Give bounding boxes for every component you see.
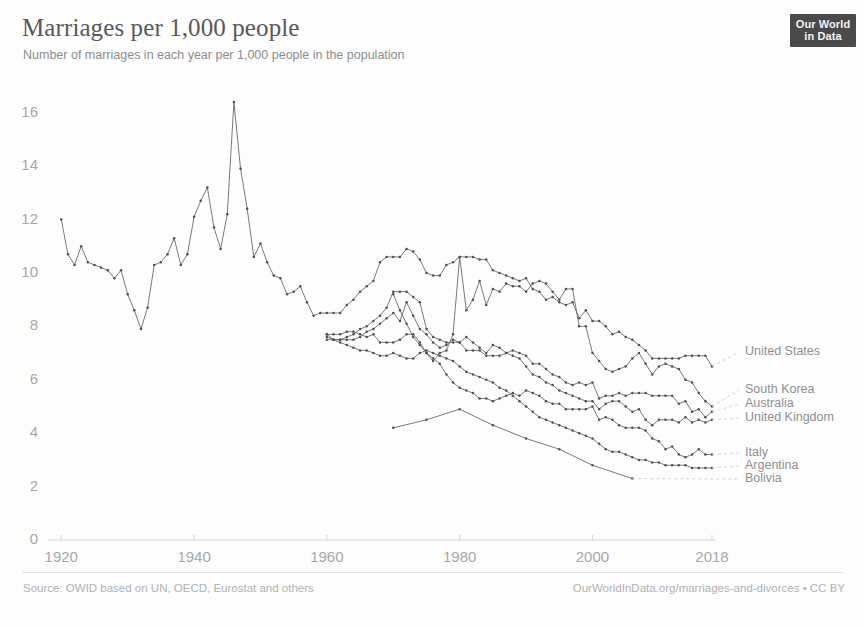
legend-label-argentina[interactable]: Argentina xyxy=(745,458,799,472)
chart-title: Marriages per 1,000 people xyxy=(22,14,300,42)
logo-line-1: Our World xyxy=(796,19,850,31)
y-tick-2: 2 xyxy=(8,477,38,494)
chart-container: Marriages per 1,000 people Number of mar… xyxy=(0,0,865,626)
y-tick-8: 8 xyxy=(8,316,38,333)
series-bolivia xyxy=(392,408,634,480)
link-note[interactable]: OurWorldInData.org/marriages-and-divorce… xyxy=(573,582,845,594)
series-italy xyxy=(326,330,714,458)
series-australia xyxy=(326,290,714,418)
legend-leader-lines xyxy=(632,352,739,479)
legend-label-italy[interactable]: Italy xyxy=(745,445,768,459)
legend-label-bolivia[interactable]: Bolivia xyxy=(745,471,782,485)
chart-subtitle: Number of marriages in each year per 1,0… xyxy=(23,48,405,62)
y-tick-16: 16 xyxy=(8,103,38,120)
our-world-in-data-logo[interactable]: Our World in Data xyxy=(790,14,856,47)
x-tick-2018: 2018 xyxy=(682,548,742,565)
source-note: Source: OWID based on UN, OECD, Eurostat… xyxy=(23,582,314,594)
y-tick-14: 14 xyxy=(8,156,38,173)
legend-label-united-states[interactable]: United States xyxy=(745,344,820,358)
legend-label-australia[interactable]: Australia xyxy=(745,396,794,410)
series-argentina xyxy=(326,336,714,469)
x-tick-2000: 2000 xyxy=(562,548,622,565)
plot-area xyxy=(0,0,865,626)
y-tick-0: 0 xyxy=(8,530,38,547)
x-tick-1960: 1960 xyxy=(297,548,357,565)
series-south-korea xyxy=(392,256,713,408)
series-lines xyxy=(60,101,713,480)
y-tick-12: 12 xyxy=(8,210,38,227)
legend-label-united-kingdom[interactable]: United Kingdom xyxy=(745,410,834,424)
legend-label-south-korea[interactable]: South Korea xyxy=(745,382,815,396)
footer-divider xyxy=(22,572,843,573)
series-united-states xyxy=(60,101,713,368)
series-united-kingdom xyxy=(326,301,714,426)
y-tick-10: 10 xyxy=(8,263,38,280)
y-tick-6: 6 xyxy=(8,370,38,387)
axis-lines xyxy=(48,535,716,540)
x-tick-1940: 1940 xyxy=(164,548,224,565)
y-tick-4: 4 xyxy=(8,423,38,440)
x-tick-1920: 1920 xyxy=(31,548,91,565)
x-tick-1980: 1980 xyxy=(430,548,490,565)
logo-line-2: in Data xyxy=(804,31,841,43)
